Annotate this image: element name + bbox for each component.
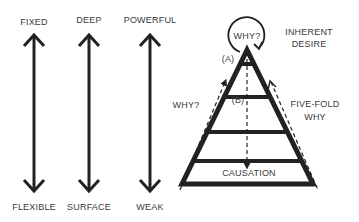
left-why-label: WHY? [173,100,200,110]
loop-arrow-icon [254,42,262,49]
causation-label: CAUSATION [222,168,276,178]
left-why-arrow [180,82,225,190]
why-pyramid: WHY? INHERENT DESIRE (A) (B) WHY? FIVE-F… [173,17,340,190]
desire-label: DESIRE [292,39,327,49]
scale-top-label: FIXED [20,17,48,27]
inherent-label: INHERENT [285,27,333,37]
scale-deep-surface: DEEP SURFACE [67,15,111,212]
diagram-canvas: FIXED FLEXIBLE DEEP SURFACE POWERFUL WEA… [0,0,359,222]
marker-a: (A) [222,54,235,64]
scale-powerful-weak: POWERFUL WEAK [124,15,177,212]
why-label: WHY [304,112,326,122]
scale-fixed-flexible: FIXED FLEXIBLE [12,17,56,212]
apex-label: WHY? [234,31,261,41]
scale-bottom-label: FLEXIBLE [12,202,56,212]
scale-bottom-label: SURFACE [67,202,111,212]
scale-top-label: POWERFUL [124,15,177,25]
scale-bottom-label: WEAK [136,202,163,212]
marker-b: (B) [232,95,245,105]
fivefold-label: FIVE-FOLD [291,99,340,109]
scale-top-label: DEEP [76,15,101,25]
